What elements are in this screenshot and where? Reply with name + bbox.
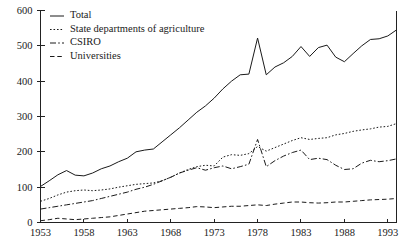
- x-tick-label: 1958: [73, 227, 94, 238]
- legend-label: State departments of agriculture: [70, 23, 205, 34]
- line-chart: 0100200300400500600 19531958196319681973…: [0, 0, 405, 248]
- x-tick-label: 1983: [290, 227, 311, 238]
- y-tick-label: 600: [17, 5, 33, 16]
- y-tick-label: 200: [17, 146, 33, 157]
- x-tick-marks: [41, 219, 388, 223]
- x-tick-labels: 195319581963196819731978198319881993: [30, 227, 398, 238]
- x-tick-label: 1973: [204, 227, 225, 238]
- x-tick-label: 1953: [30, 227, 51, 238]
- x-tick-label: 1968: [160, 227, 181, 238]
- legend-label: Universities: [70, 50, 121, 61]
- series-line-state-departments-of-agriculture: [41, 124, 397, 202]
- y-tick-label: 300: [17, 111, 33, 122]
- legend-label: Total: [70, 9, 92, 20]
- x-tick-label: 1978: [247, 227, 268, 238]
- legend-label: CSIRO: [70, 36, 101, 47]
- x-axis-group: 195319581963196819731978198319881993: [30, 219, 398, 238]
- y-tick-labels: 0100200300400500600: [17, 5, 33, 228]
- x-tick-label: 1988: [334, 227, 355, 238]
- series-line-csiro: [41, 139, 397, 209]
- x-tick-label: 1963: [117, 227, 138, 238]
- y-tick-label: 500: [17, 40, 33, 51]
- series-line-universities: [41, 198, 397, 220]
- y-tick-label: 400: [17, 76, 33, 87]
- chart-canvas: 0100200300400500600 19531958196319681973…: [0, 0, 405, 248]
- y-tick-label: 100: [17, 182, 33, 193]
- chart-legend: TotalState departments of agricultureCSI…: [50, 9, 205, 61]
- x-tick-label: 1993: [377, 227, 398, 238]
